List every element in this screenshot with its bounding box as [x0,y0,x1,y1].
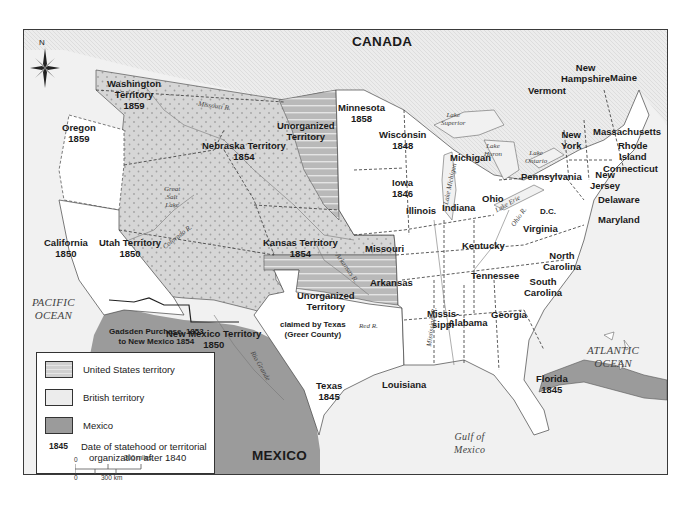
label-illinois: Illinois [406,205,436,216]
label-greer-county: claimed by Texas(Greer County) [280,320,346,339]
compass-rose: N [30,38,60,88]
label-lake-superior: LakeSuperior [441,111,466,127]
label-pacific-ocean: PACIFICOCEAN [32,296,75,322]
label-maine: Maine [610,72,637,83]
legend-item-british-territory: British territory [45,389,144,406]
label-dc: D.C. [540,207,556,217]
swatch-us-territory [45,361,73,378]
label-pennsylvania: Pennsylvania [521,171,582,182]
label-virginia: Virginia [523,223,558,234]
label-alabama: Alabama [448,317,488,328]
label-vermont: Vermont [528,85,566,96]
label-rhode-island: RhodeIsland [618,140,648,162]
label-atlantic-ocean: ATLANTICOCEAN [587,344,639,370]
label-mexico: MEXICO [252,450,307,461]
label-red-river: Red R. [359,322,378,330]
label-georgia: Georgia [491,309,527,320]
label-washington: WashingtonTerritory1859 [107,78,161,111]
scale-bar-lines [75,464,145,474]
compass-star-icon [30,48,60,88]
label-lake-huron: LakeHuron [484,142,502,158]
label-tennessee: Tennessee [471,270,519,281]
swatch-mexico [45,417,73,434]
label-unorganized-north: UnorganizedTerritory [277,120,335,142]
label-nebraska: Nebraska Territory1854 [202,140,286,162]
label-lake-ontario: LakeOntario [525,149,547,165]
label-south-carolina: SouthCarolina [524,276,562,298]
label-louisiana: Louisiana [382,379,426,390]
label-new-hampshire: NewHampshire [561,62,610,84]
label-iowa: Iowa1846 [392,177,413,199]
map-frame: N CANADA MEXICO WashingtonTerritory1859 … [23,29,668,475]
label-great-salt-lake: GreatSaltLake [164,185,180,209]
label-north-carolina: NorthCarolina [543,250,581,272]
label-minnesota: Minnesota1858 [338,102,385,124]
label-florida: Florida1845 [536,373,568,395]
legend-item-us-territory: United States territory [45,361,175,378]
legend-item-mexico: Mexico [45,417,113,434]
label-oregon: Oregon1859 [62,122,96,144]
label-maryland: Maryland [598,214,640,225]
label-missouri: Missouri [365,243,404,254]
label-unorganized-south: UnorganizedTerritory [297,290,355,312]
label-utah: Utah Territory1850 [99,237,161,259]
label-wisconsin: Wisconsin1848 [379,129,426,151]
label-massachusetts: Massachusetts [593,126,661,137]
scale-bar: 0 300 miles 0 300 km [74,456,184,482]
label-california: California1850 [44,237,88,259]
label-new-york: NewYork [561,129,581,151]
label-connecticut: Connecticut [603,163,658,174]
label-gadsden: Gadsden Purchase, 1853to New Mexico 1854 [109,327,204,346]
label-canada: CANADA [352,36,412,47]
label-kansas: Kansas Territory1854 [263,237,338,259]
swatch-british-territory [45,389,73,406]
label-texas: Texas1845 [316,380,342,402]
label-kentucky: Kentucky [462,240,505,251]
label-delaware: Delaware [598,194,640,205]
label-gulf-of-mexico: Gulf ofMexico [454,430,485,456]
label-arkansas: Arkansas [370,277,413,288]
compass-north-label: N [39,38,45,48]
